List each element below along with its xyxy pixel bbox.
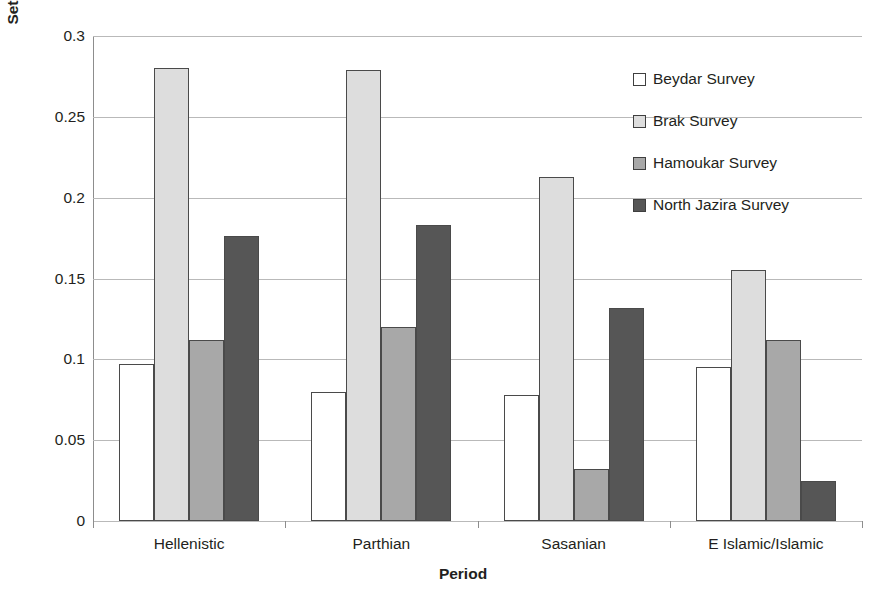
x-axis-tick-mark [285,521,286,528]
bar [381,327,416,521]
legend: Beydar SurveyBrak SurveyHamoukar SurveyN… [633,58,873,226]
y-axis-tick-label: 0.25 [55,109,85,125]
x-axis-category-label: Parthian [285,535,477,553]
x-axis-category-label: Sasanian [478,535,670,553]
x-axis-tick-mark [478,521,479,528]
bar-chart: Settlement Density (Number Sites/Suvey A… [0,0,880,607]
y-axis-tick-label: 0 [76,513,85,529]
bar [696,367,731,521]
legend-item: North Jazira Survey [633,184,873,226]
legend-label: North Jazira Survey [653,196,789,214]
y-axis-tick-label: 0.2 [63,190,85,206]
bar [574,469,609,521]
y-axis-tick-label: 0.1 [63,351,85,367]
x-axis-title: Period [439,565,487,583]
y-axis-title: Settlement Density (Number Sites/Suvey A… [0,0,26,98]
bar [346,70,381,521]
x-axis-title-container: Period [0,565,880,583]
bar [416,225,451,521]
legend-label: Hamoukar Survey [653,154,777,172]
legend-swatch-icon [633,199,646,212]
legend-swatch-icon [633,73,646,86]
legend-label: Beydar Survey [653,70,755,88]
x-axis-tick-mark [862,521,863,528]
x-axis-tick-mark [93,521,94,528]
bar [154,68,189,521]
legend-label: Brak Survey [653,112,737,130]
bar [224,236,259,521]
bar [609,308,644,521]
legend-item: Beydar Survey [633,58,873,100]
y-axis-tick-label: 0.3 [63,28,85,44]
x-axis-category-label: Hellenistic [93,535,285,553]
bar [766,340,801,521]
bar [311,392,346,521]
y-axis-tick-label: 0.05 [55,432,85,448]
y-axis-tick-labels: 00.050.10.150.20.250.3 [28,0,85,607]
bar [119,364,154,521]
legend-item: Brak Survey [633,100,873,142]
legend-item: Hamoukar Survey [633,142,873,184]
x-axis-tick-mark [670,521,671,528]
bar [504,395,539,521]
legend-swatch-icon [633,115,646,128]
bar [189,340,224,521]
legend-swatch-icon [633,157,646,170]
bar [731,270,766,521]
y-axis-tick-label: 0.15 [55,271,85,287]
bar [539,177,574,521]
bar [801,481,836,521]
gridline [93,36,862,37]
x-axis-category-label: E Islamic/Islamic [670,535,862,553]
